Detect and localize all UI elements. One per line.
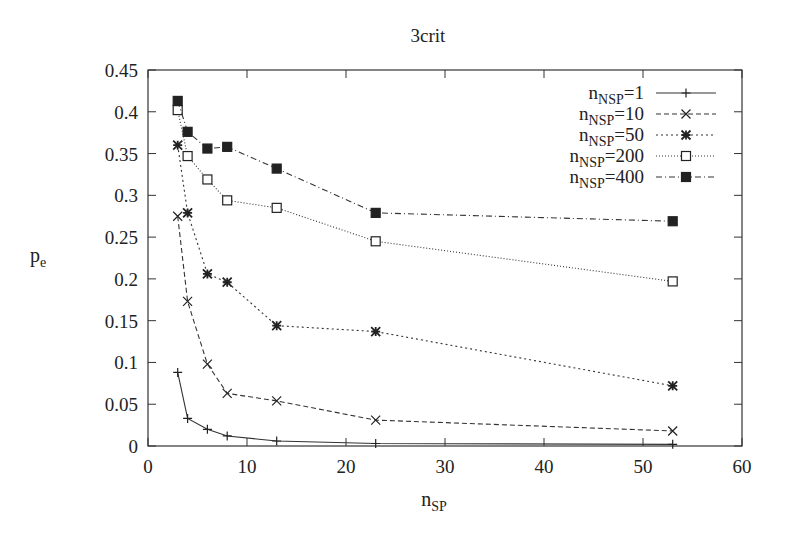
y-tick-label: 0.35 (105, 144, 138, 165)
y-tick-label: 0.05 (105, 394, 138, 415)
series-nsp-200 (173, 106, 677, 286)
legend: nNSP=1nNSP=10nNSP=50nNSP=200nNSP=400 (570, 82, 716, 191)
legend-item: nNSP=1 (589, 82, 716, 107)
x-tick-label: 60 (733, 456, 752, 477)
series-nsp-10 (173, 212, 677, 436)
line-chart: 3crit 010203040506000.050.10.150.20.250.… (0, 0, 798, 539)
y-tick-label: 0.4 (114, 102, 138, 123)
plot-frame (148, 70, 742, 446)
x-tick-label: 50 (634, 456, 653, 477)
x-tick-label: 0 (143, 456, 153, 477)
y-tick-label: 0 (129, 436, 139, 457)
y-tick-label: 0.15 (105, 311, 138, 332)
x-tick-label: 30 (436, 456, 455, 477)
x-tick-label: 20 (337, 456, 356, 477)
x-axis-label: nSP (421, 488, 447, 514)
y-tick-label: 0.1 (114, 352, 138, 373)
y-tick-label: 0.25 (105, 227, 138, 248)
y-tick-label: 0.45 (105, 60, 138, 81)
series-line (178, 372, 673, 444)
series-group (173, 96, 677, 448)
y-axis-label: pe (30, 244, 46, 270)
y-tick-label: 0.2 (114, 269, 138, 290)
chart-title: 3crit (411, 25, 447, 46)
axes: 010203040506000.050.10.150.20.250.30.350… (105, 60, 752, 477)
x-tick-label: 40 (535, 456, 554, 477)
series-nsp-1 (173, 368, 677, 449)
x-tick-label: 10 (238, 456, 257, 477)
series-line (178, 216, 673, 431)
y-tick-label: 0.3 (114, 185, 138, 206)
